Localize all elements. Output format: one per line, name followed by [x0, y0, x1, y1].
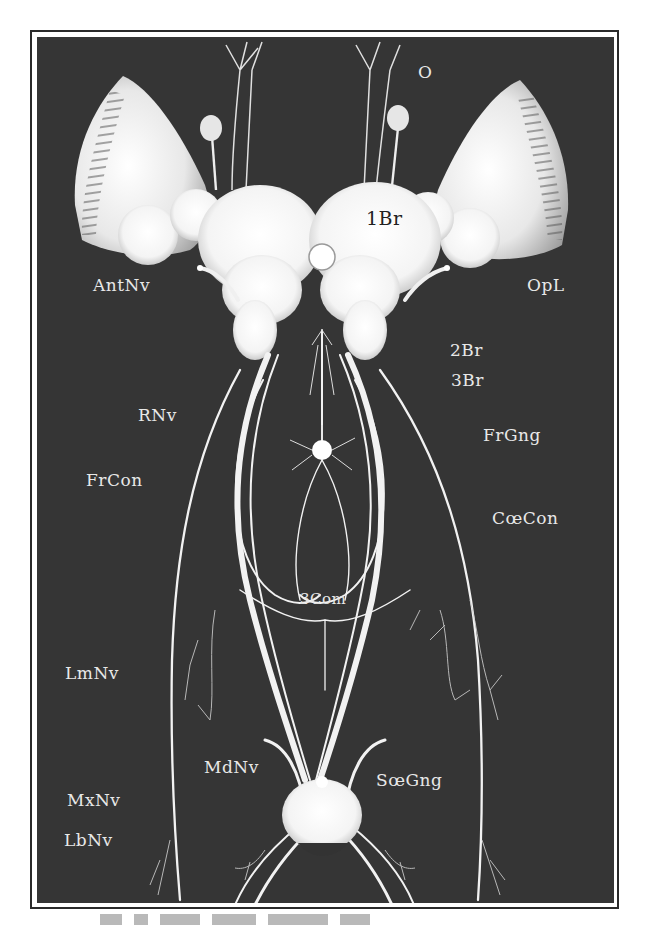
label-optic-lobe: OpL: [527, 275, 565, 295]
label-tritocerebral-commissure: 3Com: [300, 590, 346, 608]
label-recurrent-nerve: RNv: [138, 405, 177, 425]
label-mandibular-nerve: MdNv: [204, 757, 259, 777]
label-tritocerebrum: 3Br: [451, 370, 484, 390]
label-ocellus: O: [418, 62, 432, 82]
nervous-system-plate: O 1Br AntNv OpL 2Br 3Br RNv FrGng FrCon …: [37, 37, 614, 903]
label-labial-nerve: LbNv: [64, 830, 113, 850]
label-labrum-nerve: LmNv: [65, 663, 119, 683]
label-protocerebrum: 1Br: [366, 207, 403, 229]
label-deutocerebrum: 2Br: [450, 340, 483, 360]
label-subesophageal-ganglion: SœGng: [376, 770, 442, 790]
label-antennal-nerve: AntNv: [93, 275, 150, 295]
figure-caption-cropped: [100, 914, 520, 925]
label-frontal-connective: FrCon: [86, 470, 143, 490]
label-frontal-ganglion: FrGng: [483, 425, 541, 445]
label-maxillary-nerve: MxNv: [67, 790, 120, 810]
label-circumesophageal-connective: CœCon: [492, 508, 559, 528]
